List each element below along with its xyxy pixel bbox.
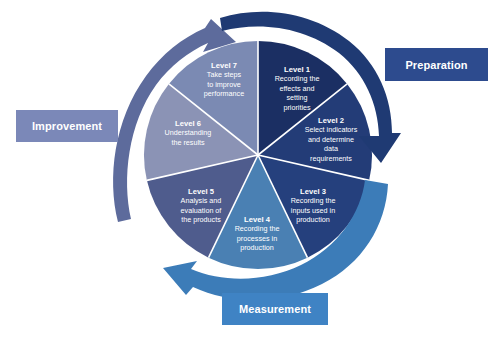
- callout-measurement[interactable]: Measurement: [222, 293, 328, 325]
- callout-improvement[interactable]: Improvement: [16, 110, 118, 142]
- callout-preparation[interactable]: Preparation: [385, 48, 488, 81]
- callout-improvement-label: Improvement: [32, 120, 102, 132]
- callout-preparation-label: Preparation: [405, 59, 467, 71]
- cycle-diagram: Level 1Recording theeffects andsettingpr…: [0, 0, 496, 341]
- callout-measurement-label: Measurement: [239, 303, 311, 315]
